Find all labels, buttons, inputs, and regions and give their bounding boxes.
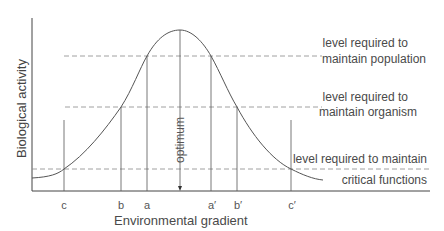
tick-a-prime: a′ [208, 199, 216, 211]
critical-level-label-2: critical functions [342, 173, 427, 187]
critical-level-label-1: level required to maintain [293, 152, 427, 166]
tick-b: b [118, 199, 124, 211]
population-level-label-2: maintain population [322, 52, 426, 66]
tick-a: a [144, 199, 150, 211]
tick-c: c [61, 199, 67, 211]
population-level-label-1: level required to [323, 36, 408, 50]
organism-level-label-2: maintain organism [319, 105, 417, 119]
x-axis-label: Environmental gradient [114, 214, 248, 228]
tick-c-prime: c′ [288, 199, 296, 211]
organism-level-label-1: level required to [323, 90, 408, 104]
y-axis-label: Biological activity [14, 59, 29, 158]
tick-b-prime: b′ [234, 199, 242, 211]
optimum-label: optimum [173, 117, 187, 163]
optimum-arrowhead [178, 186, 182, 191]
